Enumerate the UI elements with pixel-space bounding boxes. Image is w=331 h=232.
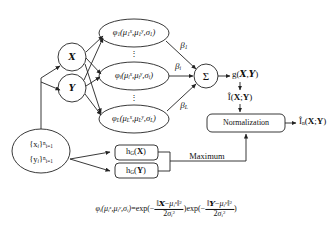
vertical-dots-lower: ⋮ [130, 94, 138, 102]
beta-label-1: β1 [180, 41, 187, 51]
normalization-label[interactable]: Normalization [223, 119, 269, 127]
script-x-label: X [69, 53, 76, 62]
hg-y-label: hG(Y) [126, 166, 146, 175]
hidden-unit-label-2: φi(μix,μiy,σi) [115, 71, 153, 80]
hidden-unit-label-3: φL(μLx,μLy,σL) [112, 114, 156, 123]
diagram-edges [0, 0, 331, 232]
diagram-canvas: φ1(μ1x,μ1y,σ1) φi(μix,μiy,σi) φL(μLx,μLy… [0, 0, 331, 232]
sum-symbol: Σ [203, 71, 209, 82]
input-samples-x: {xi}ni=1 [29, 140, 53, 149]
input-ellipse [12, 129, 70, 173]
input-samples-y: {yi}ni=1 [29, 155, 53, 164]
beta-label-2: βi [175, 62, 181, 72]
mi-normalized-label: În(X;Y) [299, 117, 326, 127]
maximum-label: Maximum [189, 152, 224, 161]
phi-equation: φi(μix,μiy,σi)=exp(−‖X−μix‖22σi2)exp(−‖Y… [95, 199, 236, 219]
hg-x-label: hG(X) [126, 147, 146, 156]
script-y-label: Y [69, 84, 75, 93]
vertical-dots-upper: ⋮ [130, 50, 138, 58]
beta-label-3: βL [180, 101, 188, 111]
mi-hat-label: Î(X;Y) [228, 93, 253, 102]
g-output-label: g(X,Y) [232, 70, 258, 79]
hidden-unit-label-1: φ1(μ1x,μ1y,σ1) [113, 28, 156, 37]
